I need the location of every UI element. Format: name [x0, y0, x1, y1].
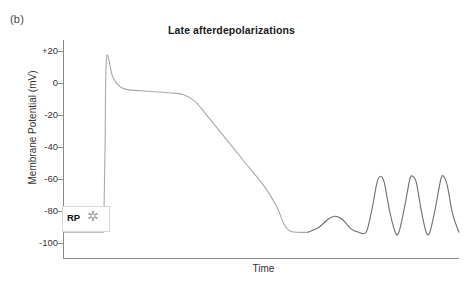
- figure-panel-b: (b) Late afterdepolarizations Membrane P…: [0, 0, 463, 281]
- afterdepolarization-trace: [308, 175, 459, 235]
- axis-lines: [64, 40, 460, 259]
- stimulus-star-icon: ✲: [87, 209, 99, 223]
- resting-potential-label: RP: [67, 212, 80, 223]
- plot-area: [0, 0, 463, 281]
